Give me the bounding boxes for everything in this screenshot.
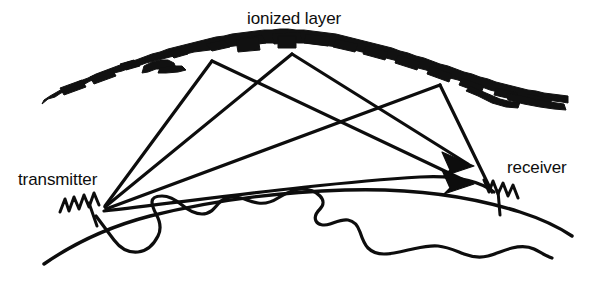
- diagram-canvas: ionized layer transmitter receiver: [0, 0, 589, 287]
- transmitter-antenna: [60, 193, 99, 226]
- coastline-outline: [96, 189, 552, 258]
- arrowhead-lower: [442, 170, 474, 194]
- propagation-diagram: ionized layer transmitter receiver: [0, 0, 589, 287]
- transmitter-label: transmitter: [18, 170, 98, 189]
- earth-surface-arc: [44, 190, 572, 264]
- receiver-label: receiver: [507, 158, 567, 177]
- skywave-ray-1: [105, 61, 468, 206]
- ionized-layer-label: ionized layer: [247, 9, 342, 28]
- ionized-layer-band: [42, 29, 568, 110]
